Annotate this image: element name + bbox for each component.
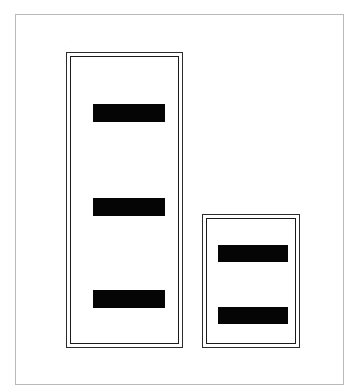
redaction-bar-small-2 <box>218 307 288 324</box>
panel-body-large <box>71 57 178 343</box>
redaction-bar-small-1 <box>218 245 288 262</box>
panel-body-small <box>207 219 295 343</box>
redaction-panel-small <box>202 214 300 348</box>
scanned-page <box>0 0 361 390</box>
redaction-bar-large-3 <box>93 290 165 308</box>
panel-inner-rule-large <box>70 56 179 344</box>
redaction-bar-large-1 <box>93 104 165 122</box>
panel-inner-rule-small <box>206 218 296 344</box>
redaction-bar-large-2 <box>93 198 165 216</box>
redaction-panel-large <box>66 52 183 348</box>
